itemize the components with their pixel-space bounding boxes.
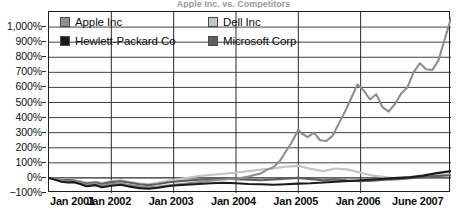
legend-label: Microsoft Corp xyxy=(223,35,296,47)
x-tick-label: Jan 2004 xyxy=(211,194,256,208)
y-tick-mark xyxy=(42,41,46,42)
y-tick-mark xyxy=(42,102,46,103)
y-tick-mark xyxy=(42,162,46,163)
y-tick-mark xyxy=(42,117,46,118)
y-tick-mark xyxy=(42,192,46,193)
stock-performance-chart: Apple Inc. vs. Competitors 1,000%900%800… xyxy=(0,0,467,222)
y-tick-label: 400% xyxy=(16,112,42,122)
legend-swatch-icon xyxy=(208,36,218,46)
y-tick-label: 1,000% xyxy=(7,21,42,31)
y-tick-label: 900% xyxy=(16,36,42,46)
x-axis: Jan 2001Jan 2002Jan 2003Jan 2004Jan 2005… xyxy=(0,194,467,214)
x-tick-label: Jan 2002 xyxy=(86,194,131,208)
series-line xyxy=(49,166,451,184)
y-tick-mark xyxy=(42,147,46,148)
x-tick-label: Jan 2006 xyxy=(336,194,381,208)
y-axis: 1,000%900%800%700%600%500%400%300%200%10… xyxy=(0,11,46,192)
legend-label: Apple Inc xyxy=(75,16,122,28)
chart-title: Apple Inc. vs. Competitors xyxy=(0,0,467,8)
y-tick-mark xyxy=(42,56,46,57)
legend-label: Hewlett-Packard Co xyxy=(75,35,175,47)
legend-label: Dell Inc xyxy=(223,16,261,28)
y-tick-mark xyxy=(42,26,46,27)
y-tick-mark xyxy=(42,177,46,178)
legend-item[interactable]: Microsoft Corp xyxy=(208,35,296,47)
legend-swatch-icon xyxy=(60,17,70,27)
y-tick-label: 100% xyxy=(16,157,42,167)
legend-swatch-icon xyxy=(208,17,218,27)
y-tick-mark xyxy=(42,86,46,87)
y-tick-label: 0% xyxy=(27,172,42,182)
y-tick-label: 700% xyxy=(16,66,42,76)
y-tick-mark xyxy=(42,132,46,133)
chart-legend: Apple IncDell IncHewlett-Packard CoMicro… xyxy=(60,16,330,50)
legend-swatch-icon xyxy=(60,36,70,46)
y-tick-label: 300% xyxy=(16,127,42,137)
y-tick-label: 800% xyxy=(16,51,42,61)
legend-item[interactable]: Hewlett-Packard Co xyxy=(60,35,175,47)
x-tick-label: Jan 2005 xyxy=(273,194,318,208)
y-tick-label: 200% xyxy=(16,142,42,152)
x-tick-label: Jan 2003 xyxy=(149,194,194,208)
y-tick-mark xyxy=(42,71,46,72)
legend-item[interactable]: Apple Inc xyxy=(60,16,122,28)
x-tick-label: June 2007 xyxy=(392,194,443,208)
y-tick-label: 600% xyxy=(16,81,42,91)
y-tick-label: 500% xyxy=(16,97,42,107)
legend-item[interactable]: Dell Inc xyxy=(208,16,261,28)
